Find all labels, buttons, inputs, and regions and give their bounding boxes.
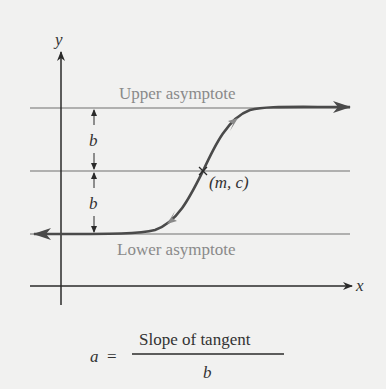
x-axis-label: x: [355, 276, 364, 295]
formula-numerator: Slope of tangent: [139, 330, 251, 349]
b-label-bottom: b: [89, 194, 98, 213]
sigmoid-diagram: y x b b (m, c) Upper asymptote Lower asy…: [0, 0, 386, 389]
b-label-top: b: [89, 131, 98, 150]
lower-asymptote-label: Lower asymptote: [117, 240, 236, 259]
formula-lhs: a: [90, 347, 99, 366]
y-axis-label: y: [53, 30, 63, 49]
upper-asymptote-label: Upper asymptote: [119, 84, 236, 103]
sigmoid-curve-left: [34, 171, 203, 234]
formula-equals: =: [107, 347, 117, 366]
midpoint-label: (m, c): [209, 173, 249, 192]
formula-denominator: b: [203, 363, 212, 382]
sigmoid-curve-right: [203, 107, 350, 171]
